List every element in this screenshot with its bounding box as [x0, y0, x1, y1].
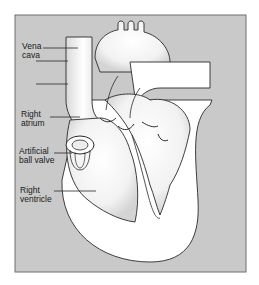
- heart-diagram: Vena cava Right atrium Artificial ball v…: [0, 0, 259, 285]
- label-right-atrium: Right atrium: [21, 110, 45, 128]
- label-artificial-ball-valve: Artificial ball valve: [19, 147, 54, 165]
- label-vena-cava: Vena cava: [22, 42, 41, 60]
- label-right-ventricle: Right ventricle: [20, 186, 52, 204]
